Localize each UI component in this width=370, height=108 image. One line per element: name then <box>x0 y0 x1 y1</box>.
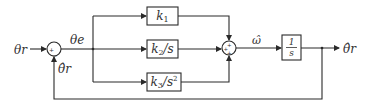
summing-junction-1: + − <box>47 42 61 59</box>
block-diagram: θr + − θe k1 k2/s k3/s2 + + + ω <box>0 0 370 108</box>
sum2-sign-bottom: + <box>227 50 232 56</box>
summing-junction-2: + + + <box>222 41 236 56</box>
omega-hat-label: ω̂ <box>252 34 261 47</box>
integral-block-k2-over-s: k2/s <box>147 40 178 58</box>
output-label-theta-r-hat: θ̂r <box>343 42 357 56</box>
input-label-theta-r: θr <box>14 43 28 57</box>
wire-k1-to-sum2 <box>178 16 229 40</box>
svg-text:1: 1 <box>289 37 295 47</box>
gain-block-k1: k1 <box>147 7 178 25</box>
double-integral-block-k3-over-s2: k3/s2 <box>147 73 181 91</box>
svg-text:s: s <box>289 48 294 58</box>
wire-k3-to-sum2 <box>181 56 229 82</box>
integrator-block-1-over-s: 1 s <box>282 35 301 60</box>
error-label-theta-e: θe <box>70 33 84 47</box>
feedback-label-theta-r-hat: θ̂r <box>58 62 72 76</box>
